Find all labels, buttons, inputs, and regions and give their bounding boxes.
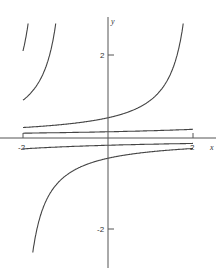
solution-curves-plot: -2 2 2 -2 x y	[0, 0, 223, 270]
x-tick-label-neg2: -2	[18, 143, 26, 152]
solution-curve	[23, 24, 28, 52]
solution-curve	[33, 149, 193, 253]
solution-curve	[23, 24, 183, 128]
y-tick-label-2: 2	[100, 51, 105, 60]
x-axis-label: x	[209, 143, 214, 152]
y-axis-label: y	[110, 17, 115, 26]
x-tick-label-2: 2	[190, 143, 195, 152]
solution-curve	[23, 24, 56, 101]
y-tick-label-neg2: -2	[97, 225, 105, 234]
